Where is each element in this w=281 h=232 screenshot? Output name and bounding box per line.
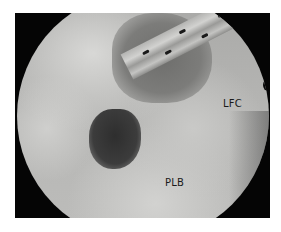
lesion-region	[89, 109, 141, 169]
instrument-marking	[164, 49, 172, 55]
label-lfc: LFC	[223, 98, 242, 109]
label-plb: PLB	[165, 177, 184, 188]
scope-notch-marker	[263, 79, 269, 91]
instrument-marking	[201, 33, 209, 39]
arthroscopy-image-frame: LFC PLB	[15, 13, 270, 218]
instrument-marking	[243, 13, 251, 15]
shadow-region	[229, 111, 269, 218]
instrument-marking	[217, 13, 225, 18]
instrument-marking	[179, 29, 187, 35]
arthroscopic-field-of-view	[17, 13, 269, 218]
instrument-marking	[142, 49, 150, 55]
